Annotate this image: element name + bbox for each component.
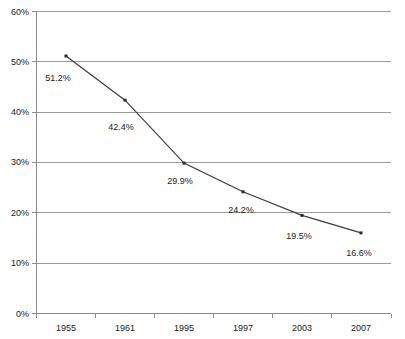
y-axis-labels: 60% 50% 40% 30% 20% 10% 0% [11,7,29,319]
x-tick-label-1997: 1997 [233,323,253,333]
data-label-1995: 29.9% [167,176,193,186]
x-tick-label-2003: 2003 [292,323,312,333]
y-tick-label-10: 10% [11,258,29,268]
line-chart: 60% 50% 40% 30% 20% 10% 0% 1955 1961 199… [0,0,405,339]
y-tick-label-20: 20% [11,208,29,218]
y-axis-ticks [32,12,37,314]
y-tick-label-50: 50% [11,57,29,67]
series-line-path [66,56,361,233]
data-series [65,55,363,235]
x-tick-label-1995: 1995 [174,323,194,333]
x-axis-ticks [37,314,392,319]
data-label-1955: 51.2% [45,73,71,83]
data-point-marker-1961[interactable] [124,99,127,102]
y-tick-label-0: 0% [16,309,29,319]
data-point-marker-1995[interactable] [183,162,186,165]
x-tick-label-1955: 1955 [56,323,76,333]
data-label-2003: 19.5% [286,231,312,241]
data-point-marker-2003[interactable] [301,214,304,217]
data-label-1961: 42.4% [108,122,134,132]
y-tick-label-40: 40% [11,107,29,117]
y-tick-label-60: 60% [11,7,29,17]
x-tick-label-2007: 2007 [351,323,371,333]
y-tick-label-30: 30% [11,157,29,167]
data-point-marker-1997[interactable] [242,190,245,193]
data-point-marker-1955[interactable] [65,55,68,58]
data-point-marker-2007[interactable] [360,231,363,234]
x-tick-label-1961: 1961 [115,323,135,333]
data-label-2007: 16.6% [346,248,372,258]
x-axis-labels: 1955 1961 1995 1997 2003 2007 [56,323,371,333]
data-point-labels: 51.2% 42.4% 29.9% 24.2% 19.5% 16.6% [45,73,372,258]
gridlines [37,12,391,264]
data-label-1997: 24.2% [228,205,254,215]
chart-screenshot: 60% 50% 40% 30% 20% 10% 0% 1955 1961 199… [0,0,405,339]
